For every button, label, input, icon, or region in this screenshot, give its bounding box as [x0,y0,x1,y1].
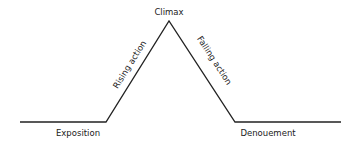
exposition-label: Exposition [56,128,100,138]
falling-action-label: Falling action [195,34,234,86]
plot-line [20,21,341,122]
denouement-label: Denouement [240,128,296,138]
climax-label: Climax [154,7,183,17]
plot-diagram: Climax Exposition Denouement Rising acti… [0,0,358,146]
